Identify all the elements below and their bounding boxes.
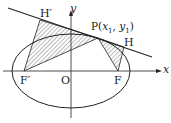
label-point-p: P(x1, y1)	[91, 21, 134, 35]
label-x-axis: x	[163, 64, 169, 75]
label-origin: O	[61, 75, 70, 86]
x-axis-arrow-icon	[156, 69, 162, 73]
p-prefix: P(	[91, 20, 102, 32]
diagram-canvas	[0, 0, 171, 123]
label-y-axis: y	[70, 3, 76, 14]
shaded-region-left	[24, 20, 98, 71]
label-h: H	[124, 37, 134, 48]
ellipse-tangent-diagram: H′ y P(x1, y1) H x F′ O F	[0, 0, 171, 123]
label-f: F	[114, 75, 122, 86]
label-h-prime: H′	[40, 8, 52, 19]
p-suffix: )	[130, 20, 134, 32]
label-f-prime: F′	[20, 75, 30, 86]
